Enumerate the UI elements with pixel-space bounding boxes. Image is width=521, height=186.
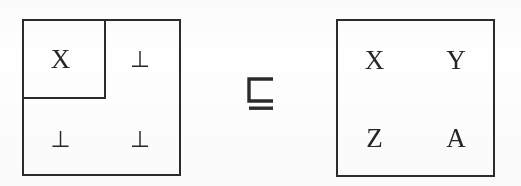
- refinement-relation-symbol: [240, 72, 282, 116]
- complete-matrix: X Y Z A: [336, 19, 495, 177]
- complete-matrix-cells: X Y Z A: [338, 21, 493, 175]
- matrix-cell-r1c0: Z: [336, 100, 414, 177]
- figure-canvas: X ⊥ ⊥ ⊥ X Y Z A: [0, 0, 521, 186]
- matrix-cell-r1c1: ⊥: [102, 102, 180, 179]
- matrix-cell-r0c0: X: [336, 22, 414, 99]
- matrix-cell-r0c1: ⊥: [102, 21, 180, 98]
- matrix-cell-r1c0: ⊥: [22, 102, 100, 179]
- matrix-cell-r0c1: Y: [418, 22, 496, 99]
- partial-matrix-cells: X ⊥ ⊥ ⊥: [24, 21, 179, 174]
- matrix-cell-r0c0: X: [22, 21, 100, 98]
- partial-matrix: X ⊥ ⊥ ⊥: [22, 19, 181, 176]
- matrix-cell-r1c1: A: [418, 100, 496, 177]
